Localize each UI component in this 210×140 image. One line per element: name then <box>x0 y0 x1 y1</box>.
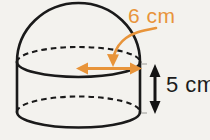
diameter-arrow-group <box>76 63 142 75</box>
height-arrowhead-top <box>150 64 161 77</box>
diameter-leader-group <box>107 28 156 67</box>
height-extension-lines <box>141 64 147 113</box>
bottom-ellipse-front-half <box>17 112 140 128</box>
height-arrowhead-bottom <box>150 101 161 114</box>
diameter-leader-arrowhead <box>107 54 119 67</box>
height-label: 5 cm <box>166 74 210 96</box>
diameter-arrowhead-left <box>76 63 88 75</box>
dome-arc <box>17 3 140 62</box>
geometry-figure: 6 cm 5 cm <box>0 0 210 140</box>
hidden-edges-group <box>17 47 140 112</box>
figure-canvas <box>0 0 210 140</box>
solid-outline-group <box>17 3 140 128</box>
bottom-ellipse-back-half-dashed <box>17 97 140 113</box>
diameter-label: 6 cm <box>128 5 176 26</box>
top-ellipse-back-half-dashed <box>17 47 140 62</box>
height-arrow-group <box>150 64 161 114</box>
